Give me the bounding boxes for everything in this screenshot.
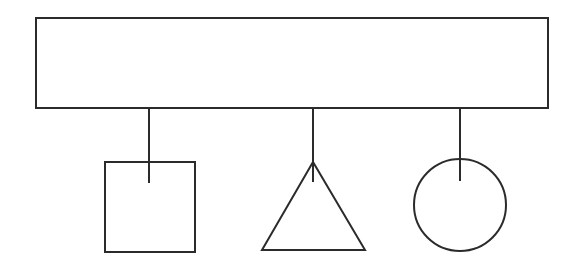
container-rectangle xyxy=(36,18,548,108)
shapes-diagram xyxy=(0,0,571,261)
circle-branch xyxy=(414,108,506,251)
square-branch xyxy=(105,108,195,252)
triangle-branch xyxy=(262,108,365,250)
